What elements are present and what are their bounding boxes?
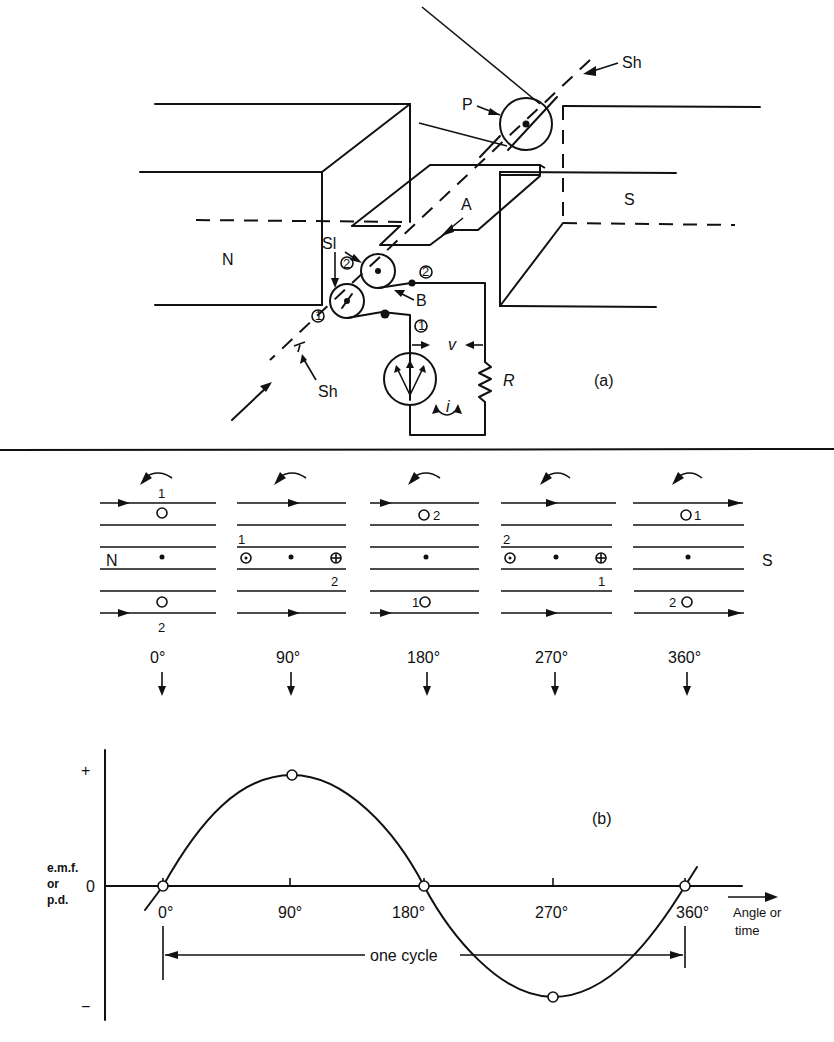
y-tick-zero: 0 xyxy=(86,878,95,895)
external-circuit: B 2 1 v R xyxy=(347,264,515,435)
belt-upper xyxy=(422,7,540,104)
divider xyxy=(0,449,834,450)
pulley-label: P xyxy=(462,96,473,113)
svg-text:1: 1 xyxy=(315,308,322,323)
figure-b-label: (b) xyxy=(592,810,612,827)
x-tick-90: 90° xyxy=(278,904,302,921)
brushes-label: B xyxy=(416,292,427,309)
svg-text:2: 2 xyxy=(158,620,165,635)
position-pole-south: S xyxy=(762,552,773,569)
armature-coil: A xyxy=(352,165,545,245)
terminal-1-label: 1 xyxy=(418,318,425,333)
terminal-2-label: 2 xyxy=(422,264,429,279)
position-frame-360: 1 2 360° xyxy=(633,472,744,696)
y-tick-minus: − xyxy=(81,998,90,1015)
south-pole: S xyxy=(500,106,760,307)
y-tick-plus: + xyxy=(81,762,90,779)
svg-text:2: 2 xyxy=(669,595,676,610)
svg-text:or: or xyxy=(47,877,59,891)
svg-text:2: 2 xyxy=(503,532,510,547)
svg-text:1: 1 xyxy=(158,486,165,501)
one-cycle-label: one cycle xyxy=(370,947,438,964)
svg-text:p.d.: p.d. xyxy=(47,893,68,907)
position-frame-270: 2 1 270° xyxy=(501,472,616,696)
pole-south-label: S xyxy=(624,191,635,208)
position-frame-180: 2 1 180° xyxy=(370,472,479,696)
armature-label: A xyxy=(461,196,472,213)
x-tick-180: 180° xyxy=(392,904,425,921)
north-pole: N xyxy=(140,104,410,305)
svg-text:360°: 360° xyxy=(668,649,701,666)
resistance-label: R xyxy=(503,372,515,389)
svg-text:270°: 270° xyxy=(535,649,568,666)
position-frame-0: 1 2 0° xyxy=(100,472,216,696)
svg-text:1: 1 xyxy=(598,574,605,589)
voltage-label: v xyxy=(448,336,457,353)
y-axis-label-1: e.m.f. xyxy=(47,861,78,875)
view-direction-arrow xyxy=(232,386,268,420)
svg-text:1: 1 xyxy=(412,595,419,610)
position-frame-90: 1 2 90° xyxy=(237,472,346,696)
slip-rings-label: Sl xyxy=(322,235,336,252)
generator-diagram: N S P Sh xyxy=(0,0,834,1042)
svg-text:180°: 180° xyxy=(407,649,440,666)
position-pole-north: N xyxy=(106,552,118,569)
x-tick-270: 270° xyxy=(535,904,568,921)
svg-text:0°: 0° xyxy=(150,649,165,666)
svg-text:90°: 90° xyxy=(276,649,300,666)
svg-text:1: 1 xyxy=(694,508,701,523)
current-label: i xyxy=(446,398,450,415)
svg-text:2: 2 xyxy=(343,256,350,271)
shaft-label-bottom: Sh xyxy=(318,383,338,400)
x-axis-label-2: time xyxy=(735,923,760,938)
figure-a: N S P Sh xyxy=(140,7,760,435)
x-tick-0: 0° xyxy=(158,904,173,921)
x-tick-360: 360° xyxy=(676,904,709,921)
coil-positions: N S 1 2 0° 1 xyxy=(100,472,773,696)
svg-text:1: 1 xyxy=(238,532,245,547)
svg-text:2: 2 xyxy=(433,508,440,523)
svg-text:2: 2 xyxy=(331,574,338,589)
figure-a-label: (a) xyxy=(594,372,614,389)
pole-north-label: N xyxy=(222,251,234,268)
emf-chart: Angle or time + 0 − e.m.f. or p.d. 0° 90… xyxy=(47,750,782,1020)
shaft-label-top: Sh xyxy=(622,54,642,71)
x-axis-label-1: Angle or xyxy=(733,905,782,920)
pulley: P xyxy=(462,96,552,150)
